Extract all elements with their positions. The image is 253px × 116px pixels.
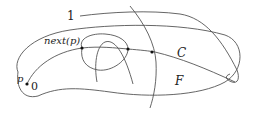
vertical-arc [130,6,156,108]
label-p: p [17,73,24,84]
point-p [25,82,28,85]
diagram-canvas: 1 next(p) p 0 C F [0,0,253,116]
point-next-p [80,46,83,49]
label-C: C [177,46,186,60]
label-F: F [174,74,184,88]
point-intersection-2 [126,47,129,50]
label-next-p: next(p) [44,35,80,46]
point-intersection-3 [150,50,153,53]
label-one: 1 [67,9,75,23]
label-zero: 0 [31,80,38,93]
